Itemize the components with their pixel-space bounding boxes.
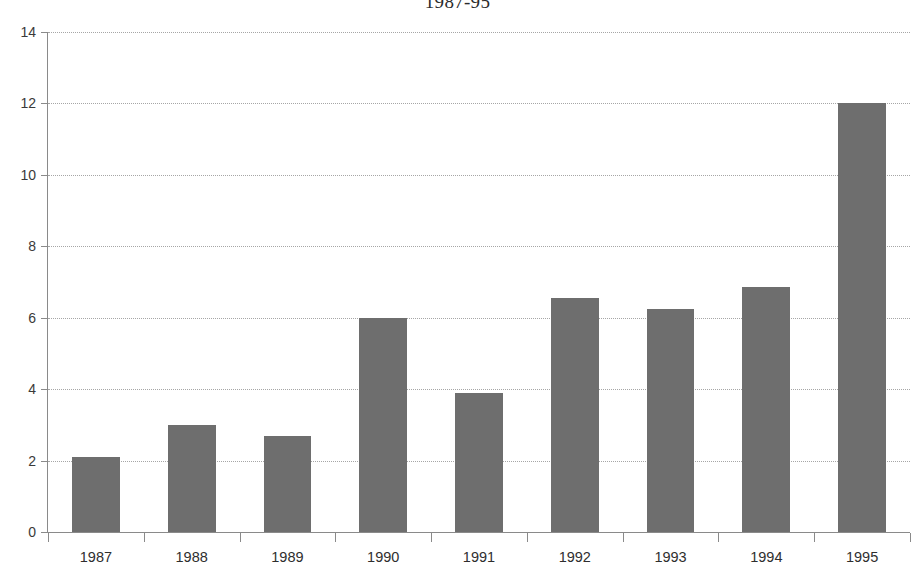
- bar[interactable]: [742, 287, 790, 532]
- x-tick-label: 1995: [814, 550, 910, 565]
- x-tick-label: 1993: [623, 550, 719, 565]
- y-tick-label: 0: [0, 525, 36, 539]
- x-tick-mark: [814, 533, 815, 542]
- bar[interactable]: [455, 393, 503, 532]
- x-tick-mark: [527, 533, 528, 542]
- bar[interactable]: [551, 298, 599, 532]
- x-tick-label: 1988: [144, 550, 240, 565]
- bar[interactable]: [168, 425, 216, 532]
- bar[interactable]: [264, 436, 312, 532]
- y-tick-label: 10: [0, 168, 36, 182]
- x-tick-mark: [431, 533, 432, 542]
- x-tick-mark: [48, 533, 49, 542]
- bar-chart: 1987-95 02468101214 19871988198919901991…: [0, 0, 915, 576]
- bar[interactable]: [359, 318, 407, 532]
- y-tick-label: 12: [0, 96, 36, 110]
- x-tick-label: 1991: [431, 550, 527, 565]
- y-tick-label: 4: [0, 382, 36, 396]
- bar[interactable]: [72, 457, 120, 532]
- y-tick-mark: [41, 103, 48, 104]
- y-tick-label: 14: [0, 25, 36, 39]
- x-tick-mark: [144, 533, 145, 542]
- y-tick-mark: [41, 461, 48, 462]
- bar[interactable]: [647, 309, 695, 532]
- y-tick-label: 8: [0, 239, 36, 253]
- bar[interactable]: [838, 103, 886, 532]
- y-tick-mark: [41, 318, 48, 319]
- x-tick-label: 1987: [48, 550, 144, 565]
- y-tick-mark: [41, 246, 48, 247]
- x-tick-label: 1994: [718, 550, 814, 565]
- bars-layer: [48, 32, 910, 532]
- x-tick-label: 1989: [240, 550, 336, 565]
- y-tick-label: 6: [0, 311, 36, 325]
- x-tick-mark: [335, 533, 336, 542]
- x-tick-mark: [910, 533, 911, 542]
- x-tick-mark: [240, 533, 241, 542]
- x-tick-mark: [718, 533, 719, 542]
- y-tick-label: 2: [0, 454, 36, 468]
- y-tick-mark: [41, 389, 48, 390]
- y-tick-mark: [41, 175, 48, 176]
- x-axis-line: [47, 532, 910, 533]
- x-tick-label: 1990: [335, 550, 431, 565]
- y-tick-mark: [41, 532, 48, 533]
- y-tick-mark: [41, 32, 48, 33]
- x-tick-mark: [623, 533, 624, 542]
- x-tick-label: 1992: [527, 550, 623, 565]
- chart-title: 1987-95: [0, 0, 915, 13]
